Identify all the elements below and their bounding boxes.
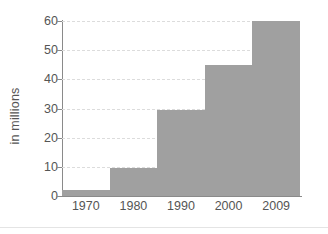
y-axis-tick-mark — [56, 167, 62, 168]
bottom-divider — [0, 227, 328, 228]
y-axis-tick-label: 20 — [24, 131, 58, 144]
y-axis-tick-label: 30 — [24, 102, 58, 115]
y-axis-tick-label: 40 — [24, 73, 58, 86]
y-axis-tick-labels: 0102030405060 — [24, 0, 58, 234]
bar-1980 — [110, 168, 158, 196]
bar-slot — [62, 21, 110, 196]
x-axis-line — [62, 196, 302, 197]
y-axis-tick-mark — [56, 109, 62, 110]
bar-2000 — [205, 65, 253, 196]
bar-slot — [110, 21, 158, 196]
bar-2009 — [252, 21, 300, 196]
bar-slot — [252, 21, 300, 196]
plot-area — [62, 21, 300, 196]
y-axis-tick-mark — [56, 138, 62, 139]
y-axis-tick-label: 10 — [24, 161, 58, 174]
bar-slot — [205, 21, 253, 196]
y-axis-tick-label: 60 — [24, 15, 58, 28]
x-axis-tick-label: 1990 — [157, 198, 205, 215]
bar-1990 — [157, 110, 205, 196]
bar-series — [62, 21, 300, 196]
x-axis-tick-labels: 19701980199020002009 — [62, 198, 300, 215]
y-axis-title: in millions — [6, 56, 24, 176]
y-axis-tick-mark — [56, 21, 62, 22]
bar-slot — [157, 21, 205, 196]
y-axis-tick-mark — [56, 196, 62, 197]
y-axis-tick-label: 0 — [24, 190, 58, 203]
x-axis-tick-label: 2009 — [252, 198, 300, 215]
bar-1970 — [62, 190, 110, 196]
y-axis-tick-mark — [56, 79, 62, 80]
y-axis-tick-label: 50 — [24, 44, 58, 57]
y-axis-tick-mark — [56, 50, 62, 51]
bar-chart-figure: in millions 0102030405060 19701980199020… — [0, 0, 328, 234]
y-axis-title-text: in millions — [8, 87, 22, 144]
x-axis-tick-label: 2000 — [205, 198, 253, 215]
x-axis-tick-label: 1980 — [110, 198, 158, 215]
x-axis-tick-label: 1970 — [62, 198, 110, 215]
